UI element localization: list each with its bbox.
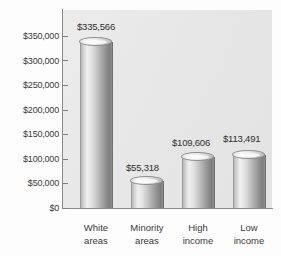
- y-tick-label: $150,000: [3, 129, 59, 139]
- y-tick-label: $200,000: [3, 105, 59, 115]
- category-label-line2: areas: [71, 235, 121, 248]
- bar-value-label-white-areas: $335,566: [77, 21, 115, 32]
- bar-top-ellipse: [181, 152, 214, 161]
- bar-top-highlight: [84, 40, 108, 44]
- category-label-line1: Minority: [120, 222, 174, 235]
- category-label-high-income: High income: [172, 222, 224, 247]
- y-tick-mark: [63, 36, 68, 37]
- y-tick-mark: [63, 183, 68, 184]
- bar-value-label-minority-areas: $55,318: [126, 162, 159, 173]
- y-tick-label: $300,000: [3, 56, 59, 66]
- y-tick-mark: [63, 110, 68, 111]
- bar-low-income: [233, 155, 264, 208]
- bar-top-ellipse: [232, 150, 265, 159]
- bar-chart: $350,000 $300,000 $250,000 $200,000 $150…: [0, 0, 281, 256]
- bar-body: [233, 155, 266, 208]
- y-tick-mark: [63, 134, 68, 135]
- y-tick-mark: [63, 85, 68, 86]
- bar-body: [80, 42, 113, 208]
- y-tick-label: $350,000: [3, 31, 59, 41]
- y-axis-line: [62, 9, 63, 209]
- y-tick-label: $100,000: [3, 154, 59, 164]
- category-label-line2: income: [223, 235, 275, 248]
- y-tick-label: $0: [3, 203, 59, 213]
- category-label-line1: Low: [223, 222, 275, 235]
- category-label-line1: White: [71, 222, 121, 235]
- bar-top-highlight: [237, 153, 261, 157]
- bar-top-highlight: [186, 155, 210, 159]
- bar-value-label-high-income: $109,606: [172, 137, 210, 148]
- y-tick-label: $250,000: [3, 80, 59, 90]
- bar-value-label-low-income: $113,491: [223, 133, 260, 144]
- y-tick-mark: [63, 208, 68, 209]
- bar-high-income: [182, 157, 213, 208]
- category-label-minority-areas: Minority areas: [120, 222, 174, 247]
- bar-body: [182, 157, 215, 208]
- bar-body: [131, 181, 164, 208]
- bar-top-ellipse: [130, 176, 163, 185]
- y-tick-mark: [63, 60, 68, 61]
- x-axis-line: [62, 208, 273, 209]
- y-tick-mark: [63, 159, 68, 160]
- bar-minority-areas: [131, 181, 162, 208]
- category-label-low-income: Low income: [223, 222, 275, 247]
- bar-top-ellipse: [79, 37, 112, 46]
- bar-top-highlight: [135, 179, 159, 183]
- category-label-white-areas: White areas: [71, 222, 121, 247]
- category-label-line2: income: [172, 235, 224, 248]
- y-tick-label: $50,000: [3, 178, 59, 188]
- category-label-line1: High: [172, 222, 224, 235]
- category-label-line2: areas: [120, 235, 174, 248]
- bar-white-areas: [80, 42, 111, 208]
